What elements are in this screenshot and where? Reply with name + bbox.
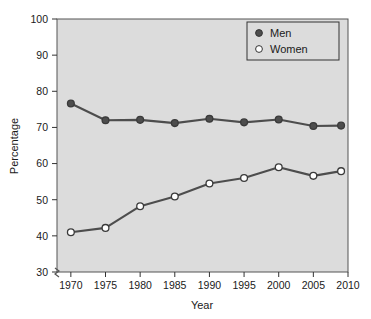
data-point-marker	[137, 203, 144, 210]
y-axis-tick-labels: 30405060708090100	[30, 13, 48, 278]
y-tick-label: 80	[36, 85, 48, 97]
data-point-marker	[241, 175, 248, 182]
data-point-marker	[241, 119, 248, 126]
data-point-marker	[206, 115, 213, 122]
legend-label-men: Men	[270, 27, 291, 39]
x-tick-label: 2010	[336, 279, 360, 291]
data-point-marker	[137, 116, 144, 123]
x-tick-label: 1980	[128, 279, 152, 291]
data-point-marker	[338, 122, 345, 129]
data-point-marker	[310, 123, 317, 130]
x-axis-title: Year	[191, 299, 214, 311]
x-tick-label: 1990	[198, 279, 222, 291]
legend-marker-men	[256, 30, 263, 37]
legend-marker-women	[256, 46, 263, 53]
legend-label-women: Women	[270, 43, 308, 55]
data-point-marker	[275, 164, 282, 171]
data-point-marker	[67, 229, 74, 236]
x-tick-label: 1975	[94, 279, 118, 291]
y-tick-label: 50	[36, 194, 48, 206]
legend: Men Women	[247, 22, 339, 60]
x-axis-tick-labels: 197019751980198519901995200020052010	[59, 279, 360, 291]
x-axis-ticks	[71, 272, 348, 277]
y-tick-label: 90	[36, 49, 48, 61]
x-tick-label: 1985	[163, 279, 187, 291]
x-tick-label: 2005	[302, 279, 326, 291]
x-tick-label: 2000	[267, 279, 291, 291]
line-chart: 30405060708090100 1970197519801985199019…	[0, 0, 371, 319]
y-tick-label: 40	[36, 230, 48, 242]
x-tick-label: 1995	[232, 279, 256, 291]
data-point-marker	[275, 116, 282, 123]
data-point-marker	[67, 100, 74, 107]
data-point-marker	[171, 120, 178, 127]
data-point-marker	[206, 180, 213, 187]
y-tick-label: 70	[36, 121, 48, 133]
data-point-marker	[102, 225, 109, 232]
data-point-marker	[338, 168, 345, 175]
y-axis-title: Percentage	[8, 118, 20, 174]
y-tick-label: 60	[36, 157, 48, 169]
data-point-marker	[171, 193, 178, 200]
data-point-marker	[310, 172, 317, 179]
chart-container: 30405060708090100 1970197519801985199019…	[0, 0, 371, 319]
y-tick-label: 30	[36, 266, 48, 278]
x-tick-label: 1970	[59, 279, 83, 291]
data-point-marker	[102, 117, 109, 124]
y-axis-ticks	[52, 19, 57, 272]
y-tick-label: 100	[30, 13, 48, 25]
